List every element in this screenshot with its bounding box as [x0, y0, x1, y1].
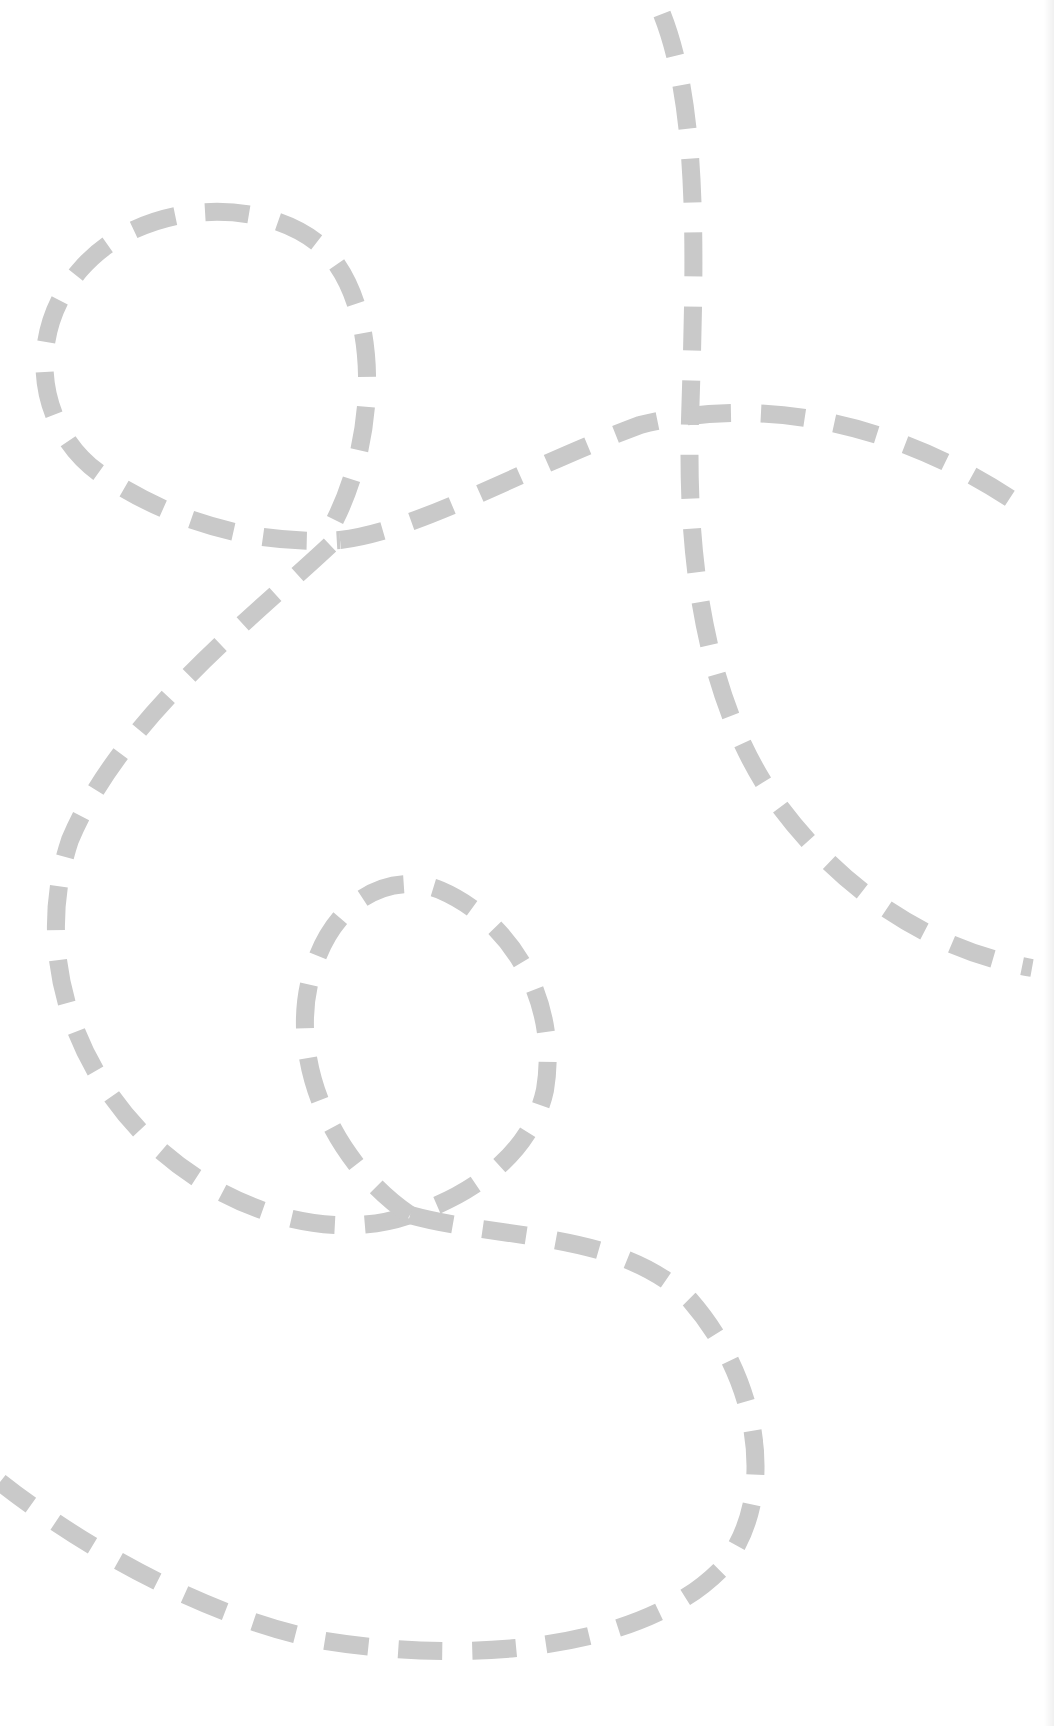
drawing-canvas	[0, 0, 1054, 1726]
bottom-swoop-path	[0, 1215, 756, 1651]
top-loop-path	[44, 212, 367, 541]
dashed-paths-group	[0, 14, 1032, 1651]
right-edge-shade	[1044, 0, 1054, 1726]
dashed-lines-illustration	[0, 0, 1054, 1726]
big-s-curve-path	[56, 545, 410, 1225]
vertical-swoop-path	[662, 14, 1032, 968]
inner-loop-path	[305, 884, 548, 1215]
